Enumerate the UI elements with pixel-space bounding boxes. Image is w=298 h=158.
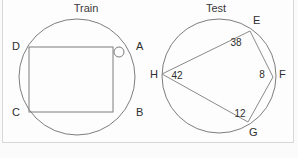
arc-value-12: 12 [234,108,246,119]
geometry-figures: Train D A C B Test E F G H 38 8 42 [0,0,298,158]
figure-train-title: Train [74,2,99,14]
point-label-f: F [279,68,286,80]
point-label-a: A [136,40,144,52]
train-inscribed-rectangle [29,47,113,112]
point-label-d: D [12,40,20,52]
figure-test: Test E F G H 38 8 42 12 [150,2,286,138]
arc-value-8: 8 [259,69,265,80]
point-label-b: B [136,106,143,118]
arc-value-38: 38 [230,37,242,48]
point-label-h: H [150,68,158,80]
point-label-g: G [249,126,258,138]
figure-train: Train D A C B [12,2,144,135]
point-label-c: C [12,106,20,118]
figure-test-title: Test [206,2,226,14]
small-circle-marker-icon [114,47,124,57]
arc-value-42: 42 [171,70,183,81]
train-outer-circle [19,19,135,135]
diagram-canvas: Train D A C B Test E F G H 38 8 42 [0,0,298,158]
point-label-e: E [253,14,260,26]
